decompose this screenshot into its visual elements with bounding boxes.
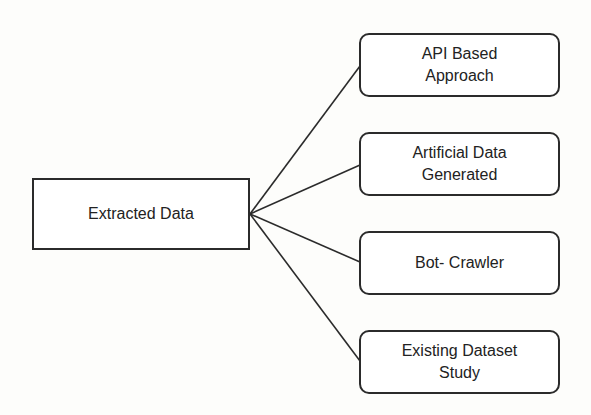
connector-bot [250,214,360,262]
root-node-label: Extracted Data [88,203,194,225]
node-label: Existing Dataset Study [402,340,518,384]
node-existing-dataset-study: Existing Dataset Study [359,330,560,394]
node-label: API Based Approach [422,43,498,87]
node-api-based-approach: API Based Approach [359,33,560,97]
node-artificial-data-generated: Artificial Data Generated [359,132,560,196]
connector-existing [250,214,360,361]
node-label: Artificial Data Generated [412,142,506,186]
node-bot-crawler: Bot- Crawler [359,231,560,295]
connector-artificial [250,165,360,214]
root-node-extracted-data: Extracted Data [32,178,250,250]
node-label: Bot- Crawler [415,252,504,274]
connector-api [250,66,360,214]
